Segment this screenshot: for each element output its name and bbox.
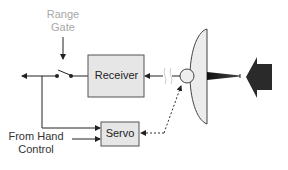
receiver-label: Receiver <box>88 69 145 82</box>
incoming-signal-arrow <box>246 57 272 98</box>
line-break-icon <box>164 68 172 84</box>
antenna-beam <box>207 72 240 80</box>
servo-to-feed-dashed-diag <box>164 86 181 133</box>
feed-horn <box>180 69 194 83</box>
hand-control-line2: Control <box>2 143 70 156</box>
range-gate-label: Range Gate <box>38 8 88 34</box>
range-gate-line1: Range <box>38 8 88 21</box>
hand-control-line1: From Hand <box>2 130 70 143</box>
hand-control-label: From Hand Control <box>2 130 70 156</box>
range-gate-line2: Gate <box>38 21 88 34</box>
servo-label: Servo <box>101 127 139 140</box>
switch-blade <box>58 70 70 75</box>
